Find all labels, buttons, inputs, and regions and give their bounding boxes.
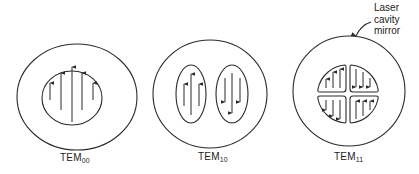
field-arrows-up bbox=[184, 74, 199, 115]
tem00-diagram bbox=[17, 44, 137, 150]
annotation-arrow bbox=[356, 22, 371, 36]
mode-label-sub: 11 bbox=[356, 156, 364, 163]
mode-label-sub: 00 bbox=[82, 157, 90, 164]
tem11-label: TEM11 bbox=[334, 151, 363, 163]
lobe-top-right bbox=[350, 65, 378, 92]
laser-cavity-mirror-label: Laser cavity mirror bbox=[374, 2, 400, 37]
lobe-bottom-left bbox=[318, 96, 346, 123]
mode-label-main: TEM bbox=[198, 151, 220, 162]
lobe-top-left bbox=[318, 65, 346, 92]
annotation-line-1: Laser bbox=[374, 2, 400, 14]
mirror-outline bbox=[153, 40, 267, 148]
tem11-diagram bbox=[293, 36, 405, 146]
mode-label-main: TEM bbox=[334, 151, 356, 162]
mode-label-sub: 10 bbox=[220, 156, 228, 163]
annotation-line-2: cavity bbox=[374, 14, 400, 26]
field-arrows-down bbox=[225, 73, 240, 113]
mirror-outline bbox=[17, 44, 137, 150]
tem10-diagram bbox=[153, 40, 267, 148]
tem00-label: TEM00 bbox=[60, 152, 90, 164]
tem10-label: TEM10 bbox=[198, 151, 228, 163]
annotation-line-3: mirror bbox=[374, 25, 400, 37]
lobe-bottom-right bbox=[350, 96, 378, 123]
mode-diagram bbox=[0, 0, 419, 174]
mode-label-main: TEM bbox=[60, 152, 82, 163]
mirror-outline bbox=[293, 36, 405, 146]
